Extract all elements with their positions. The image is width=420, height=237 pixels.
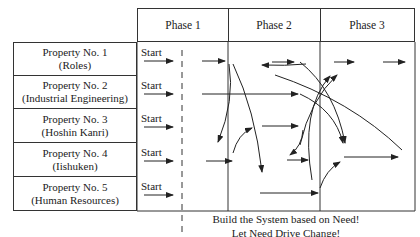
arrow bbox=[262, 64, 306, 65]
arrow bbox=[320, 162, 340, 188]
caption: Build the System based on Need! Let Need… bbox=[186, 212, 386, 237]
caption-line-2: Let Need Drive Change! bbox=[186, 226, 386, 237]
curve bbox=[275, 75, 402, 150]
caption-line-1: Build the System based on Need! bbox=[186, 212, 386, 226]
flow-diagram bbox=[0, 0, 420, 237]
arrow bbox=[309, 76, 330, 180]
arrow bbox=[233, 128, 252, 153]
arrow bbox=[218, 64, 231, 142]
arrow bbox=[300, 75, 337, 145]
arrow bbox=[233, 64, 262, 172]
